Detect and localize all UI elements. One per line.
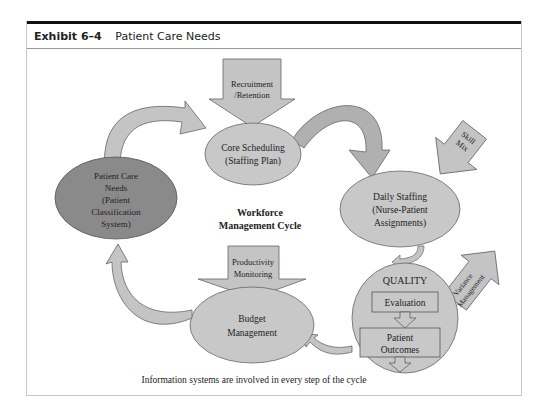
- svg-text:Assignments): Assignments): [374, 218, 426, 229]
- node-patient-care-needs: Patient Care Needs (Patient Classificati…: [55, 157, 177, 239]
- diagram-caption: Information systems are involved in ever…: [141, 375, 366, 385]
- cycle-title-line1: Workforce: [237, 207, 283, 218]
- svg-text:Patient Care: Patient Care: [94, 171, 138, 181]
- svg-text:Patient: Patient: [387, 333, 414, 343]
- node-core-scheduling: Core Scheduling (Staffing Plan): [205, 123, 301, 185]
- svg-text:Productivity: Productivity: [232, 257, 275, 267]
- cycle-title-line2: Management Cycle: [219, 220, 302, 231]
- recruitment-arrow: Recruitment /Retention: [209, 59, 295, 127]
- quality-title: QUALITY: [383, 275, 427, 286]
- svg-text:Classification: Classification: [91, 207, 141, 217]
- svg-text:Core Scheduling: Core Scheduling: [221, 143, 285, 153]
- svg-text:Monitoring: Monitoring: [234, 269, 273, 279]
- svg-text:Daily Staffing: Daily Staffing: [373, 192, 427, 202]
- arrow-scheduling-to-daily: [292, 106, 390, 178]
- svg-text:System): System): [101, 219, 131, 229]
- svg-text:Outcomes: Outcomes: [381, 345, 420, 355]
- retention-label: /Retention: [234, 90, 270, 100]
- svg-text:Budget: Budget: [238, 314, 266, 324]
- svg-text:Management: Management: [227, 328, 277, 338]
- node-budget-management: Budget Management: [190, 287, 314, 363]
- svg-text:(Staffing Plan): (Staffing Plan): [225, 156, 281, 167]
- node-quality: QUALITY Evaluation Patient Outcomes: [352, 263, 458, 373]
- workforce-cycle-diagram: Recruitment /Retention Core Scheduling (…: [0, 0, 548, 416]
- svg-text:(Patient: (Patient: [102, 195, 130, 205]
- node-daily-staffing: Daily Staffing (Nurse-Patient Assignment…: [340, 171, 460, 247]
- recruitment-label: Recruitment: [231, 79, 274, 89]
- svg-text:Needs: Needs: [105, 183, 128, 193]
- svg-text:(Nurse-Patient: (Nurse-Patient: [372, 205, 428, 216]
- svg-text:Evaluation: Evaluation: [384, 298, 425, 308]
- arrow-budget-to-needs: [106, 244, 192, 324]
